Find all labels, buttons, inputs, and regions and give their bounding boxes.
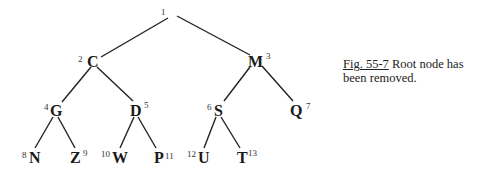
node-6-letter: S: [214, 102, 223, 119]
node-3-number: 3: [266, 51, 271, 61]
node-2-number: 2: [78, 54, 83, 64]
node-7-number: 7: [306, 101, 311, 111]
node-8-letter: N: [29, 149, 41, 166]
figure-caption: Fig. 55-7 Root node has been removed.: [343, 57, 483, 85]
node-3-letter: M: [248, 53, 263, 70]
edge-1-3: [177, 16, 250, 55]
edge-5-10: [120, 117, 134, 148]
node-1-number: 1: [161, 7, 166, 17]
node-13-number: 13: [248, 148, 258, 158]
node-9-letter: Z: [70, 149, 81, 166]
node-12-letter: U: [198, 149, 210, 166]
node-4-letter: G: [50, 102, 63, 119]
edge-6-13: [221, 117, 240, 148]
edge-4-8: [35, 117, 53, 148]
node-13-letter: T: [237, 149, 248, 166]
node-5-letter: D: [130, 102, 142, 119]
node-8-number: 8: [22, 150, 27, 160]
node-9-number: 9: [83, 148, 88, 158]
tree-diagram: 1 2 C M 3 4 G D 5 6 S Q 7 8 N Z 9 10 W P…: [0, 0, 488, 173]
node-11-number: 11: [165, 151, 174, 161]
node-7-letter: Q: [290, 102, 302, 119]
edge-2-5: [97, 67, 133, 101]
node-10-letter: W: [112, 149, 128, 166]
figure-label: Fig. 55-7: [343, 57, 389, 71]
node-12-number: 12: [187, 149, 196, 159]
edge-5-11: [138, 117, 156, 148]
node-11-letter: P: [154, 149, 164, 166]
node-4-number: 4: [44, 102, 49, 112]
edge-2-4: [62, 67, 91, 102]
node-2-letter: C: [87, 53, 99, 70]
edge-1-2: [101, 18, 168, 57]
tree-edges: [35, 16, 293, 148]
edge-6-12: [204, 117, 216, 148]
node-10-number: 10: [101, 149, 111, 159]
edge-3-7: [262, 66, 293, 101]
node-6-number: 6: [207, 102, 212, 112]
edge-4-9: [58, 117, 75, 148]
node-5-number: 5: [144, 100, 149, 110]
edge-3-6: [224, 67, 250, 101]
